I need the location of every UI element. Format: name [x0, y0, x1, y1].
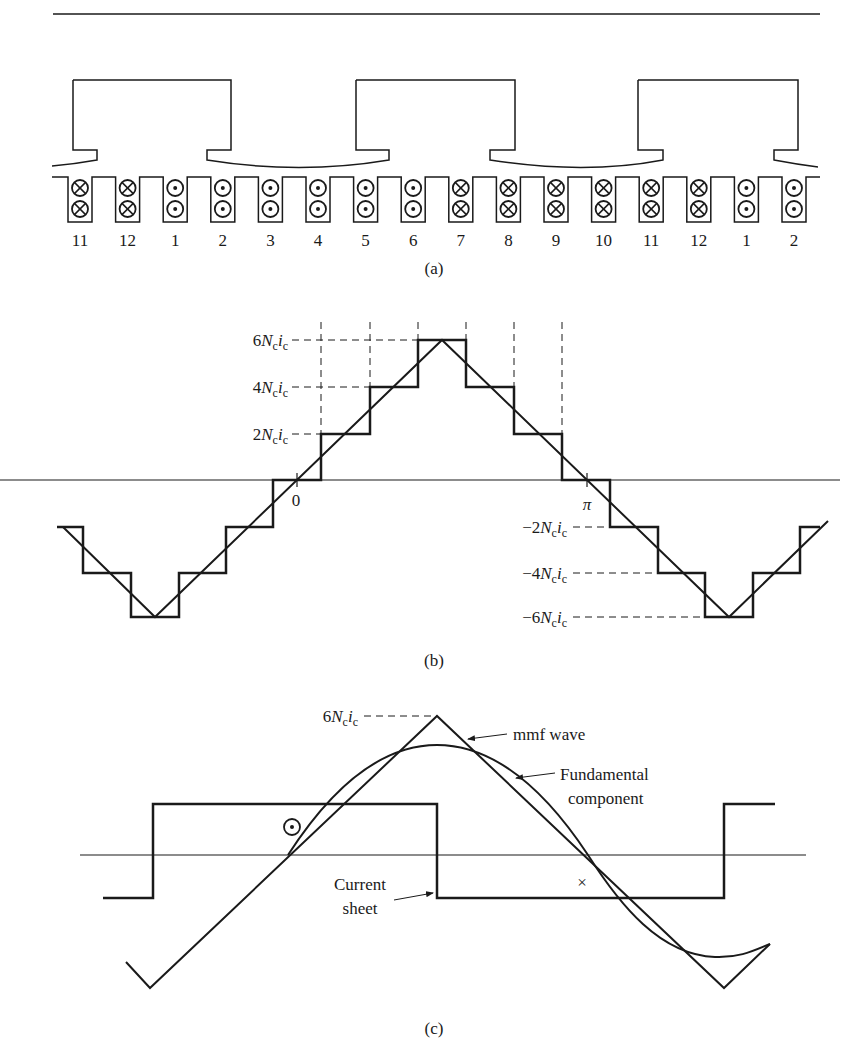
conductor-in-icon	[453, 180, 469, 217]
conductor-out-icon	[310, 180, 326, 217]
slot-number: 8	[504, 231, 513, 250]
label-6: 6Ncic	[253, 331, 288, 353]
pole-right	[638, 80, 818, 167]
slot-labels: 111212345678910111212	[72, 231, 798, 250]
slot-number: 2	[790, 231, 799, 250]
conductor-out-icon	[358, 180, 374, 217]
slot-number: 1	[171, 231, 180, 250]
slot-number: 1	[742, 231, 751, 250]
caption-a: (a)	[425, 259, 444, 278]
caption-b: (b)	[424, 651, 444, 670]
mmf-wave-label: mmf wave	[513, 725, 585, 744]
mmf-wave	[126, 716, 770, 988]
slot-number: 9	[552, 231, 561, 250]
slot-number: 12	[119, 231, 136, 250]
current-sheet-label-2: sheet	[343, 899, 378, 918]
fundamental-label-1: Fundamental	[560, 765, 649, 784]
slot-number: 4	[314, 231, 323, 250]
conductor-out-icon	[262, 180, 278, 217]
peak-label: 6Ncic	[323, 707, 358, 729]
slot-number: 7	[457, 231, 466, 250]
conductor-in-icon	[72, 180, 88, 217]
panel-b: 6Ncic 4Ncic 2Ncic −2Ncic −4Ncic −6Ncic 0…	[0, 322, 840, 670]
conductor-out-icon	[215, 180, 231, 217]
figure-canvas: 111212345678910111212 (a) 6Ncic 4Nc	[0, 0, 868, 1056]
out-of-page-symbol	[284, 819, 300, 835]
conductor-in-icon	[500, 180, 516, 217]
conductor-out-icon	[738, 180, 754, 217]
conductor-out-icon	[167, 180, 183, 217]
conductor-in-icon	[643, 180, 659, 217]
slot-number: 2	[219, 231, 228, 250]
current-sheet-wave	[103, 804, 775, 898]
panel-c: 6Ncic × mmf wave Fundamental component C…	[80, 707, 806, 1038]
caption-c: (c)	[425, 1019, 444, 1038]
conductor-in-icon	[691, 180, 707, 217]
conductor-in-icon	[596, 180, 612, 217]
slot-number: 5	[361, 231, 370, 250]
conductor-out-icon	[405, 180, 421, 217]
slot-number: 6	[409, 231, 418, 250]
into-page-symbol: ×	[577, 873, 587, 892]
slot-number: 11	[72, 231, 88, 250]
conductor-in-icon	[120, 180, 136, 217]
slot-number: 12	[690, 231, 707, 250]
slot-number: 10	[595, 231, 612, 250]
panel-a: 111212345678910111212 (a)	[52, 14, 820, 278]
label-neg6: −6Ncic	[522, 608, 567, 630]
fundamental-arrow	[516, 773, 555, 778]
current-sheet-arrow	[394, 893, 433, 900]
current-sheet-label-1: Current	[334, 875, 386, 894]
conductor-out-icon	[786, 180, 802, 217]
x-label-zero: 0	[292, 491, 301, 510]
stepped-mmf	[57, 340, 820, 617]
pole-middle	[356, 80, 663, 168]
conductor-in-icon	[548, 180, 564, 217]
mmf-wave-arrow	[468, 734, 507, 739]
label-neg4: −4Ncic	[522, 564, 567, 586]
fundamental-label-2: component	[568, 789, 644, 808]
rotor-slots	[52, 177, 820, 222]
slot-number: 11	[643, 231, 659, 250]
pole-shoe	[73, 80, 389, 168]
x-label-pi: π	[583, 495, 592, 514]
pole-left	[52, 80, 97, 166]
label-4: 4Ncic	[253, 378, 288, 400]
label-neg2: −2Ncic	[522, 518, 567, 540]
slot-number: 3	[266, 231, 275, 250]
label-2: 2Ncic	[253, 425, 288, 447]
dashed-guides	[292, 322, 705, 617]
